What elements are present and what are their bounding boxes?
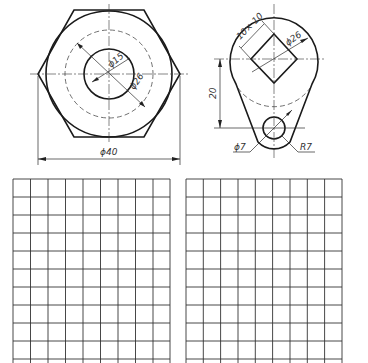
phi40-label: ϕ40 (100, 147, 118, 157)
dim20-label: 20 (208, 87, 218, 99)
left-sketch-grid (13, 179, 170, 363)
square-ext-line-1 (239, 46, 251, 59)
lever-plate-figure: 10× 10 ϕ26 20 ϕ7 R7 (208, 4, 325, 158)
arrowhead (218, 120, 222, 128)
phi26-right-leader (252, 38, 308, 72)
r7-leader (282, 136, 298, 152)
arrowhead (92, 77, 99, 82)
arrowhead (218, 59, 222, 67)
hex-nut-figure: ϕ15 ϕ26 ϕ40 (30, 4, 188, 165)
square-ext-line-2 (262, 21, 274, 34)
right-sketch-grid (186, 179, 342, 363)
phi7-leader-tail (250, 136, 266, 152)
phi7-label: ϕ7 (234, 142, 246, 152)
square-size-label: 10× 10 (234, 11, 265, 42)
r7-label: R7 (300, 142, 312, 152)
arrowhead (172, 157, 180, 161)
arrowhead (38, 157, 46, 161)
drawing-canvas: ϕ15 ϕ26 ϕ40 10× 10 ϕ26 20 (0, 0, 368, 363)
phi26-right-label: ϕ26 (283, 29, 303, 47)
